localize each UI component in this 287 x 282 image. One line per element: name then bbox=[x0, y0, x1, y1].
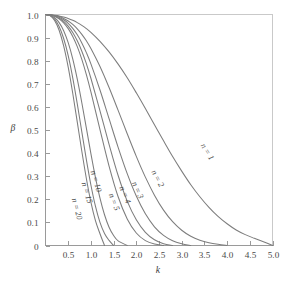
x-tick-label: 0.5 bbox=[63, 250, 75, 260]
x-axis-title: k bbox=[156, 264, 161, 275]
figure-container: 0.51.01.52.02.53.03.54.04.55.000.10.20.3… bbox=[0, 0, 287, 282]
x-tick-label: 2.5 bbox=[154, 250, 166, 260]
y-tick-label: 0.8 bbox=[27, 57, 39, 67]
y-tick-label: 1.0 bbox=[27, 11, 39, 21]
x-tick-label: 4.5 bbox=[245, 250, 257, 260]
x-tick-label: 1.5 bbox=[109, 250, 121, 260]
y-tick-label: 0.1 bbox=[27, 218, 39, 228]
y-tick-label: 0.3 bbox=[27, 172, 39, 182]
y-tick-label: 0 bbox=[34, 242, 39, 252]
y-axis-title: β bbox=[10, 122, 16, 133]
y-tick-label: 0.6 bbox=[27, 103, 39, 113]
x-tick-label: 4.0 bbox=[222, 250, 234, 260]
y-tick-label: 0.7 bbox=[27, 80, 39, 90]
y-tick-label: 0.5 bbox=[27, 126, 39, 136]
x-tick-label: 5.0 bbox=[268, 250, 280, 260]
x-tick-label: 2.0 bbox=[131, 250, 143, 260]
x-tick-label: 1.0 bbox=[86, 250, 98, 260]
x-tick-label: 3.0 bbox=[177, 250, 189, 260]
y-tick-label: 0.2 bbox=[27, 195, 39, 205]
y-tick-label: 0.4 bbox=[27, 149, 39, 159]
operating-characteristic-chart: 0.51.01.52.02.53.03.54.04.55.000.10.20.3… bbox=[0, 0, 287, 282]
y-tick-label: 0.9 bbox=[27, 34, 39, 44]
x-tick-label: 3.5 bbox=[199, 250, 211, 260]
